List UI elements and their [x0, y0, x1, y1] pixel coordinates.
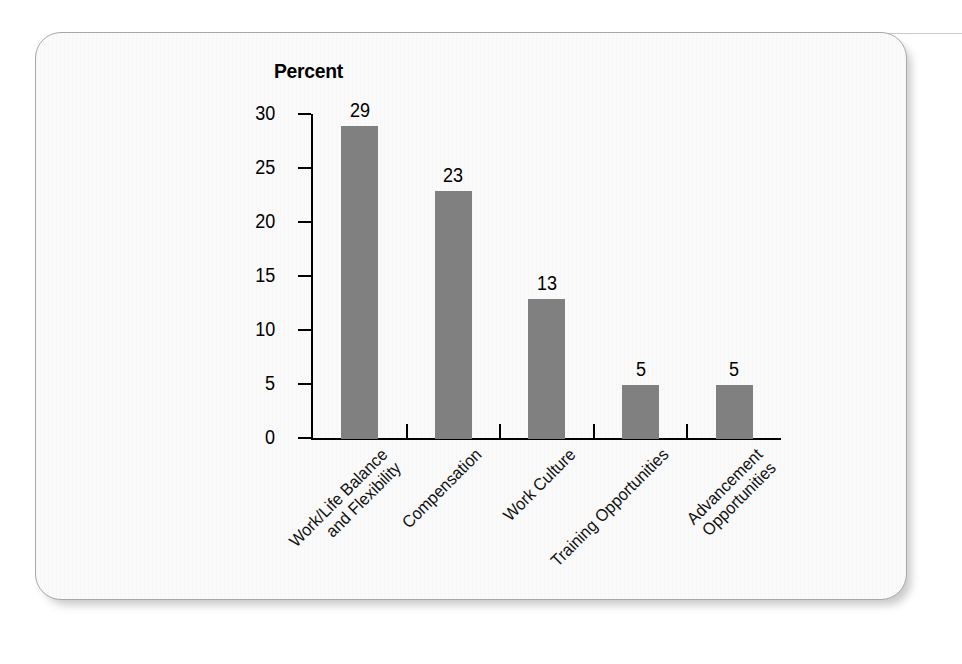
- bar-chart: Percent 051015202530 29231355 Work/Life …: [36, 33, 907, 600]
- bar[interactable]: 5: [622, 385, 659, 439]
- x-axis-category-label: Work Culture: [499, 445, 579, 525]
- bar-slot: 5: [594, 114, 688, 439]
- bar-value-label: 23: [443, 164, 463, 187]
- bar-slot: 5: [687, 114, 781, 439]
- bar-value-label: 5: [729, 358, 739, 381]
- bar[interactable]: 13: [528, 299, 565, 439]
- bar-slot: 23: [407, 114, 501, 439]
- bars-layer: 29231355: [36, 114, 907, 439]
- bar-value-label: 5: [636, 358, 646, 381]
- chart-card: Percent 051015202530 29231355 Work/Life …: [35, 32, 907, 600]
- chart-title: Percent: [274, 59, 343, 83]
- bar-slot: 13: [500, 114, 594, 439]
- x-axis-category-label: Advancement Opportunities: [683, 445, 780, 542]
- bar-value-label: 13: [537, 272, 557, 295]
- bar[interactable]: 23: [435, 191, 472, 439]
- bar[interactable]: 5: [716, 385, 753, 439]
- bar-value-label: 29: [350, 99, 370, 122]
- bar[interactable]: 29: [341, 126, 378, 439]
- x-axis-category-label: Compensation: [398, 445, 485, 532]
- x-axis-category-label: Work/Life Balance and Flexibility: [286, 445, 405, 564]
- bar-slot: 29: [313, 114, 407, 439]
